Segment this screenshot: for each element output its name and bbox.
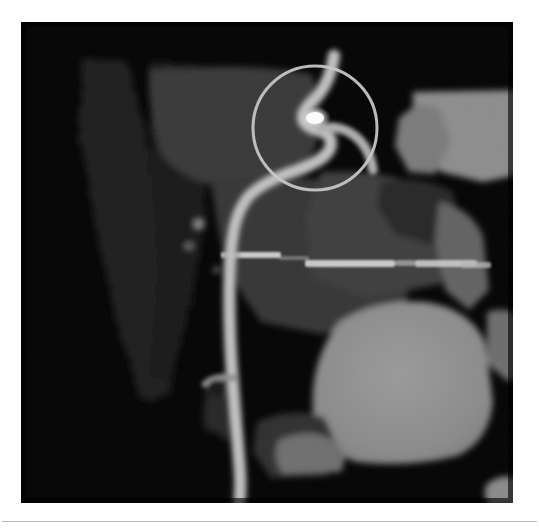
scan-panel[interactable] — [21, 22, 513, 503]
figure-divider-rule — [2, 521, 537, 522]
scan-image — [21, 22, 513, 503]
ct-figure — [0, 0, 539, 530]
